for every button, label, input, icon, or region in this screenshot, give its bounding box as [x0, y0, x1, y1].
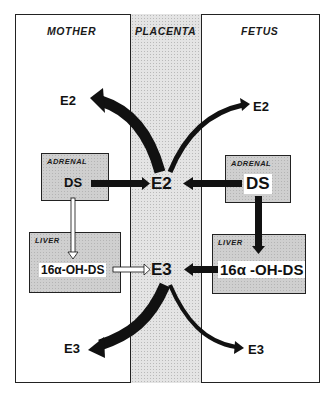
fetus-e3-label: E3 [248, 342, 264, 357]
mother-adrenal-ds: DS [64, 175, 82, 190]
arrow-m16-e3 [113, 267, 145, 272]
mother-e2-label: E2 [60, 93, 76, 108]
arrow-e3-to-fetus [170, 285, 236, 347]
arrow-e2-to-fetus [170, 105, 243, 172]
arrow-fds-liver [255, 196, 262, 248]
arrowhead-e3-mother [88, 337, 105, 358]
arrowhead-e2-fetus [240, 98, 250, 111]
fetus-liver-compound: 16α -OH-DS [218, 261, 305, 278]
mother-liver-compound: 16α-OH-DS [39, 263, 106, 277]
flow-arrows [0, 0, 330, 396]
mother-e3-label: E3 [64, 341, 80, 356]
placenta-e3: E3 [151, 260, 172, 280]
fetus-e2-label: E2 [253, 99, 269, 114]
arrow-fds-e2 [192, 180, 242, 187]
fetus-adrenal-ds: DS [244, 174, 272, 194]
arrow-e3-to-mother [100, 285, 165, 345]
arrow-mds-e2 [91, 180, 143, 187]
arrowhead-e3-fetus [234, 341, 244, 354]
arrow-mds-liver [71, 198, 75, 254]
arrowhead-e2-mother [90, 88, 105, 113]
placenta-e2: E2 [151, 174, 172, 194]
arrow-e2-to-mother [101, 101, 160, 172]
